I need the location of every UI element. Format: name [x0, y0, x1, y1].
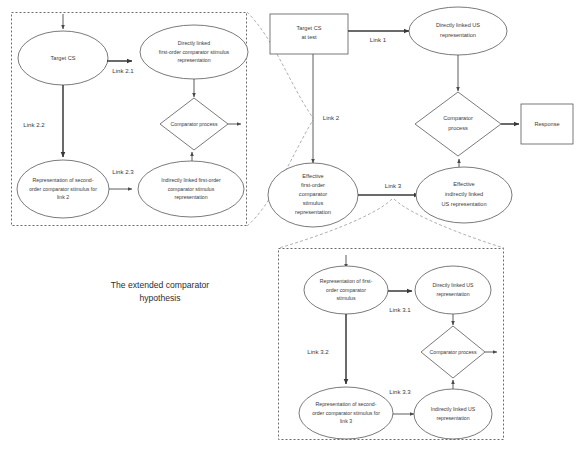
- node-effective-first-order-l1: Effective: [302, 173, 323, 179]
- node-comparator-process-main-l1: Comparator: [443, 115, 473, 121]
- figure-caption-line-2: hypothesis: [139, 293, 180, 303]
- extended-comparator-hypothesis-diagram: Target CS Link 2.1 Directly linked first…: [0, 0, 581, 451]
- link-2-2-label: Link 2.2: [23, 121, 45, 128]
- node-comparator-process-main[interactable]: [415, 92, 501, 156]
- node-effective-first-order-l4: stimulus: [303, 200, 324, 206]
- node-second-order-link3-l2: order comparator stimulus for: [312, 410, 380, 416]
- node-directly-linked-first-order-l2: first-order comparator stimulus: [159, 49, 230, 55]
- node-second-order-link3-l1: Representation of second-: [316, 401, 377, 407]
- node-comparator-process-link2-label: Comparator process: [171, 121, 218, 127]
- link-3-3-label: Link 3.3: [389, 388, 411, 395]
- node-effective-indirect-l3: US representation: [441, 201, 486, 207]
- node-directly-linked-us-link3-l2: representation: [436, 291, 469, 297]
- panel-link2-content: Target CS Link 2.1 Directly linked first…: [17, 14, 248, 218]
- node-comparator-process-link3-label: Comparator process: [430, 349, 477, 355]
- node-first-order-link3-l2: order comparator: [326, 287, 366, 293]
- node-comparator-process-main-l2: process: [448, 125, 468, 131]
- link-2-1-label: Link 2.1: [112, 67, 134, 74]
- panel-link3-content: Representation of first- order comparato…: [299, 255, 497, 439]
- node-response-label: Response: [534, 121, 559, 127]
- node-target-cs-at-test-l2: at test: [301, 34, 317, 40]
- node-second-order-link2-l3: link 2: [57, 194, 69, 200]
- node-first-order-link3-l1: Representation of first-: [320, 278, 373, 284]
- node-target-cs-at-test-l1: Target CS: [297, 25, 322, 31]
- link-3-label: Link 3: [385, 182, 402, 189]
- figure-canvas: Target CS Link 2.1 Directly linked first…: [0, 0, 581, 451]
- node-indirectly-linked-us-link3-l2: representation: [436, 415, 469, 421]
- node-effective-first-order-l5: representation: [295, 209, 331, 215]
- node-indirectly-linked-first-order-l2: comparator stimulus: [168, 186, 215, 192]
- node-second-order-link2-l1: Representation of second-: [33, 177, 94, 183]
- figure-caption-line-1: The extended comparator: [111, 280, 210, 290]
- node-directly-linked-us[interactable]: [409, 7, 507, 55]
- node-directly-linked-us-link3[interactable]: [415, 266, 491, 314]
- node-first-order-link3-l3: stimulus: [336, 295, 355, 301]
- node-second-order-link2-l2: order comparator stimulus for: [29, 186, 97, 192]
- node-directly-linked-us-l1: Directly linked US: [436, 22, 480, 28]
- node-indirectly-linked-first-order-l1: Indirectly linked first-order: [161, 177, 221, 183]
- node-directly-linked-first-order-l3: representation: [177, 57, 210, 63]
- node-second-order-link3-l3: link 3: [340, 418, 352, 424]
- link-1-label: Link 1: [370, 36, 387, 43]
- node-effective-indirect-l2: indirectly linked: [445, 191, 483, 197]
- link-3-2-label: Link 3.2: [307, 348, 329, 355]
- link-2-3-label: Link 2.3: [112, 168, 134, 175]
- node-indirectly-linked-us-link3[interactable]: [414, 389, 492, 439]
- node-effective-indirect-l1: Effective: [453, 181, 474, 187]
- figure-caption: The extended comparator hypothesis: [111, 280, 210, 303]
- link-3-1-label: Link 3.1: [389, 306, 411, 313]
- node-effective-first-order-l2: first-order: [301, 182, 325, 188]
- node-effective-first-order-l3: comparator: [299, 191, 327, 197]
- panel-main-content: Target CS at test Link 1 Directly linked…: [268, 7, 573, 227]
- link-2-label: Link 2: [323, 114, 340, 121]
- node-directly-linked-us-l2: representation: [440, 32, 476, 38]
- node-target-cs-label: Target CS: [51, 55, 76, 61]
- node-indirectly-linked-us-link3-l1: Indirectly linked US: [431, 406, 476, 412]
- node-directly-linked-us-link3-l1: Directly linked US: [433, 282, 474, 288]
- node-indirectly-linked-first-order-l3: representation: [174, 194, 207, 200]
- node-directly-linked-first-order-l1: Directly linked: [178, 40, 210, 46]
